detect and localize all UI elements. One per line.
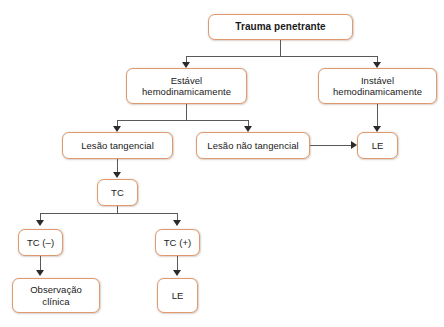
arrowhead-nao-tangencial-to-le [351,141,357,149]
node-observacao-clinica[interactable]: Observação clínica [12,278,100,313]
node-estavel-line1: Estável [130,75,243,87]
node-le-right-label: LE [361,140,394,152]
edge-unstable-to-le [377,104,378,126]
node-instavel-line2: hemodinamicamente [322,86,433,98]
edge-root-split-bar [186,56,377,57]
edge-stable-split-bar [117,120,248,121]
node-le-bottom-label: LE [161,290,194,302]
node-observacao-clinica-line1: Observação [16,284,96,296]
edge-tc-stem [117,206,118,213]
edge-tc-positive-to-le [177,256,178,271]
node-instavel-text: Instável hemodinamicamente [322,75,433,98]
node-tc-positive-label: TC (+) [159,237,196,249]
node-observacao-clinica-text: Observação clínica [16,284,96,307]
node-lesao-tangencial[interactable]: Lesão tangencial [62,132,173,159]
node-instavel-hemodinamicamente[interactable]: Instável hemodinamicamente [318,68,437,104]
node-estavel-hemodinamicamente[interactable]: Estável hemodinamicamente [126,68,247,104]
edge-tc-negative-to-observacao [40,256,41,271]
node-tc-positive[interactable]: TC (+) [155,229,200,256]
edge-nao-tangencial-to-le [310,145,351,146]
node-lesao-tangencial-label: Lesão tangencial [66,140,169,152]
edge-stable-stem [186,104,187,120]
node-estavel-line2: hemodinamicamente [130,86,243,98]
node-instavel-line1: Instável [322,75,433,87]
arrowhead-tc-to-negative [36,220,44,226]
node-tc-label: TC [101,187,134,199]
node-tc-negative[interactable]: TC (–) [18,229,63,256]
node-lesao-nao-tangencial-label: Lesão não tangencial [200,140,306,152]
edge-tc-split-bar [40,213,178,214]
edge-tangencial-to-tc [117,159,118,173]
node-lesao-nao-tangencial[interactable]: Lesão não tangencial [196,132,310,159]
arrowhead-tc-to-positive [173,220,181,226]
edge-root-stem [280,40,281,56]
node-tc[interactable]: TC [97,179,138,206]
node-observacao-clinica-line2: clínica [16,296,96,308]
arrowhead-tc-positive-to-le [173,270,181,276]
node-le-right[interactable]: LE [357,132,398,159]
arrowhead-tangencial-to-tc [113,172,121,178]
node-trauma-penetrante-label: Trauma penetrante [212,21,349,33]
node-estavel-text: Estável hemodinamicamente [130,75,243,98]
flowchart-canvas: Trauma penetrante Estável hemodinamicame… [0,0,444,327]
node-tc-negative-label: TC (–) [22,237,59,249]
node-le-bottom[interactable]: LE [157,278,198,313]
arrowhead-tc-negative-to-observacao [36,270,44,276]
node-trauma-penetrante[interactable]: Trauma penetrante [208,14,353,40]
